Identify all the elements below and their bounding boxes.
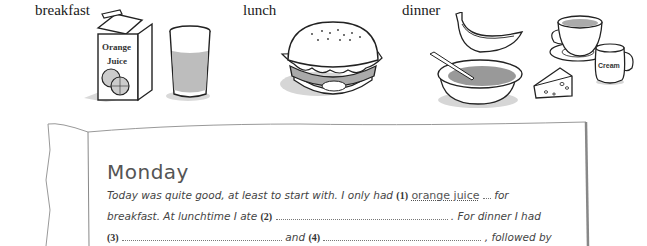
line1-after: for xyxy=(494,189,508,201)
line1-text: Today was quite good, at least to start … xyxy=(107,189,393,201)
line3-mid: and xyxy=(285,231,305,243)
diary-line-1: Today was quite good, at least to start … xyxy=(107,189,509,202)
blank-4-field[interactable] xyxy=(323,231,481,241)
blank-3-number: (3) xyxy=(107,232,119,243)
blank-3-field[interactable] xyxy=(122,231,282,241)
line3-after: , followed by xyxy=(485,231,552,243)
line2-after: . For dinner I had xyxy=(451,210,541,222)
blank-1-dots xyxy=(483,189,491,199)
line2-text: breakfast. At lunchtime I ate xyxy=(107,210,257,222)
blank-1-number: (1) xyxy=(396,190,408,201)
diary-line-2: breakfast. At lunchtime I ate (2) . For … xyxy=(107,210,541,222)
blank-1-answer: orange juice xyxy=(411,189,479,202)
diary-title: Monday xyxy=(107,160,189,184)
blank-4-number: (4) xyxy=(308,232,320,243)
diary-line-3: (3) and (4) , followed by xyxy=(107,231,552,243)
blank-2-number: (2) xyxy=(261,211,273,222)
blank-2-field[interactable] xyxy=(276,210,448,220)
